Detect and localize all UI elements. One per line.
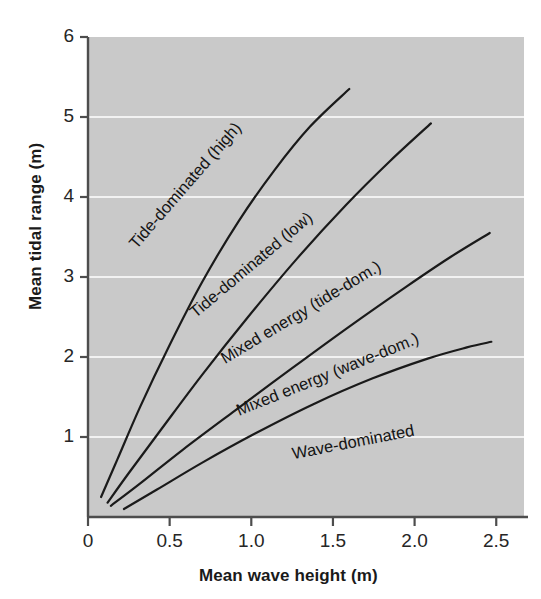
tidal-energy-classification-chart: Mean tidal range (m) Mean wave height (m… [0,0,541,599]
y-axis-tick-label: 6 [46,25,74,47]
x-axis-tick-label: 0 [58,530,118,552]
x-axis-tick-label: 2.0 [385,530,445,552]
x-axis-tick-label: 2.5 [466,530,526,552]
plot-area: Tide-dominated (high)Tide-dominated (low… [0,0,541,599]
y-axis-tick-label: 2 [46,345,74,367]
y-axis-tick-label: 1 [46,425,74,447]
y-axis-tick-label: 3 [46,265,74,287]
x-axis-ticks [88,517,496,526]
y-axis-tick-label: 5 [46,105,74,127]
x-axis-tick-label: 0.5 [140,530,200,552]
x-axis-tick-label: 1.5 [303,530,363,552]
x-axis-tick-label: 1.0 [221,530,281,552]
y-axis-tick-label: 4 [46,185,74,207]
x-axis-title: Mean wave height (m) [199,566,378,586]
y-axis-title: Mean tidal range (m) [26,143,46,310]
